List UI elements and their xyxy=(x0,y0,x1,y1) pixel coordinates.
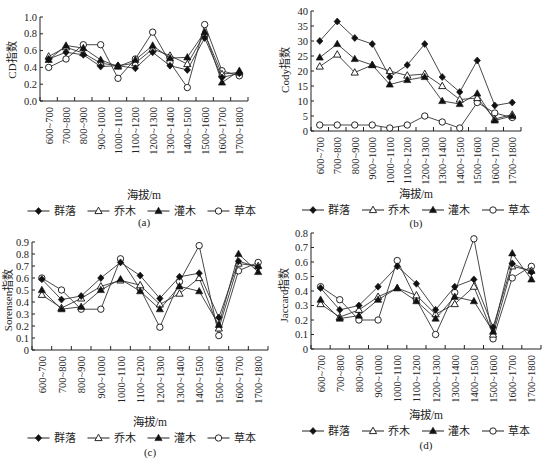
x-tick-label: 1200~1300 xyxy=(148,107,159,155)
x-tick-label: 1200~1300 xyxy=(155,356,166,404)
circle-marker-icon xyxy=(216,332,222,338)
y-tick-label: 0.6 xyxy=(16,273,29,284)
series-1 xyxy=(316,51,516,122)
y-tick-label: 0.4 xyxy=(295,286,309,297)
x-tick-label: 1700~1800 xyxy=(253,356,264,404)
y-tick-label: 0 xyxy=(303,126,308,137)
legend-label: 群落 xyxy=(328,203,350,216)
legend-item: 灌木 xyxy=(422,425,470,437)
chart-b: 0510152025303540600~700700~800800~900900… xyxy=(275,0,549,232)
chart-a: 0.00.20.40.60.81.0600~700700~800800~9009… xyxy=(0,0,275,232)
circle-marker-icon xyxy=(196,242,202,248)
diamond-marker-icon xyxy=(474,57,480,64)
open-triangle-marker-icon xyxy=(176,290,183,296)
x-tick-label: 600~700 xyxy=(316,355,327,392)
diamond-marker-icon xyxy=(509,99,515,106)
circle-marker-icon xyxy=(457,125,463,131)
circle-marker-icon xyxy=(98,306,104,312)
x-axis-label: 海拔/m xyxy=(133,415,167,428)
series-3 xyxy=(317,99,516,131)
diamond-marker-icon xyxy=(471,276,477,283)
diamond-marker-icon xyxy=(196,270,202,277)
circle-marker-icon xyxy=(215,435,221,441)
x-tick-label: 1500~1600 xyxy=(200,107,211,155)
triangle-marker-icon xyxy=(155,207,162,213)
legend-label: 草本 xyxy=(508,424,530,437)
x-tick-label: 1200~1300 xyxy=(420,137,431,185)
legend-label: 乔木 xyxy=(114,432,136,444)
triangle-marker-icon xyxy=(429,206,436,212)
legend-item: 群落 xyxy=(302,203,350,216)
legend-item: 灌木 xyxy=(422,204,470,216)
triangle-marker-icon xyxy=(509,250,516,256)
triangle-marker-icon xyxy=(184,54,191,60)
legend-label: 灌木 xyxy=(174,205,196,217)
x-tick-label: 900~1000 xyxy=(367,137,378,179)
diamond-marker-icon xyxy=(310,207,316,214)
y-tick-label: 0.2 xyxy=(16,321,29,332)
circle-marker-icon xyxy=(471,236,477,242)
triangle-marker-icon xyxy=(117,275,124,281)
triangle-marker-icon xyxy=(235,250,242,256)
y-tick-label: 40 xyxy=(298,6,309,17)
x-tick-label: 1600~1700 xyxy=(490,137,501,185)
y-tick-label: 0.2 xyxy=(295,315,308,326)
legend: 群落乔木灌木草本 xyxy=(302,203,530,216)
x-tick-label: 1400~1500 xyxy=(194,356,205,404)
triangle-marker-icon xyxy=(97,56,104,62)
diamond-marker-icon xyxy=(369,41,375,48)
legend-item: 乔木 xyxy=(88,205,136,217)
circle-marker-icon xyxy=(215,208,221,214)
circle-marker-icon xyxy=(97,42,103,48)
legend-label: 灌木 xyxy=(448,425,470,437)
circle-marker-icon xyxy=(490,428,496,434)
circle-marker-icon xyxy=(352,122,358,128)
x-tick-label: 1600~1700 xyxy=(234,356,245,404)
axes: 00.10.20.30.40.50.60.70.8600~700700~8008… xyxy=(295,228,541,403)
y-tick-label: 0.8 xyxy=(16,249,29,260)
legend: 群落乔木灌木草本 xyxy=(28,431,256,444)
y-tick-label: 0.3 xyxy=(295,300,308,311)
x-tick-label: 1300~1400 xyxy=(175,356,186,404)
y-axis-label: Cody指数 xyxy=(278,47,291,93)
y-tick-label: 0.6 xyxy=(295,257,308,268)
chart-caption: (c) xyxy=(144,446,157,459)
circle-marker-icon xyxy=(375,317,381,323)
diamond-marker-icon xyxy=(492,102,498,109)
circle-marker-icon xyxy=(45,64,51,70)
axes: 00.10.20.30.40.50.60.70.80.9600~700700~8… xyxy=(16,237,268,404)
x-tick-label: 600~700 xyxy=(315,137,326,174)
chart-panel-b: 0510152025303540600~700700~800800~900900… xyxy=(275,0,549,232)
x-tick-label: 700~800 xyxy=(335,355,346,392)
triangle-marker-icon xyxy=(351,55,358,61)
y-tick-label: 10 xyxy=(298,96,309,107)
legend-label: 草本 xyxy=(234,431,256,444)
circle-marker-icon xyxy=(334,122,340,128)
y-tick-label: 0.5 xyxy=(295,271,308,282)
x-tick-label: 1500~1600 xyxy=(488,355,499,403)
series-1 xyxy=(317,263,535,338)
triangle-marker-icon xyxy=(334,40,341,46)
triangle-marker-icon xyxy=(429,427,436,433)
legend: 群落乔木灌木草本 xyxy=(302,424,530,437)
y-tick-label: 15 xyxy=(298,81,309,92)
legend-label: 群落 xyxy=(54,431,76,444)
y-tick-label: 5 xyxy=(303,111,308,122)
open-triangle-marker-icon xyxy=(95,434,102,440)
chart-panel-a: 0.00.20.40.60.81.0600~700700~800800~9009… xyxy=(0,0,275,232)
circle-marker-icon xyxy=(422,113,428,119)
x-tick-label: 1700~1800 xyxy=(526,355,537,403)
triangle-marker-icon xyxy=(394,284,401,290)
y-tick-label: 0.4 xyxy=(24,62,38,73)
x-tick-label: 600~700 xyxy=(44,107,55,144)
circle-marker-icon xyxy=(490,207,496,213)
x-tick-label: 1100~1200 xyxy=(135,356,146,403)
y-tick-label: 1.0 xyxy=(24,12,37,23)
y-tick-label: 30 xyxy=(298,36,309,47)
diamond-marker-icon xyxy=(184,66,190,73)
y-tick-label: 0.2 xyxy=(24,79,37,90)
x-tick-label: 1100~1200 xyxy=(411,355,422,402)
x-tick-label: 1000~1100 xyxy=(392,355,403,402)
x-tick-label: 900~1000 xyxy=(96,107,107,149)
legend-label: 乔木 xyxy=(388,425,410,437)
